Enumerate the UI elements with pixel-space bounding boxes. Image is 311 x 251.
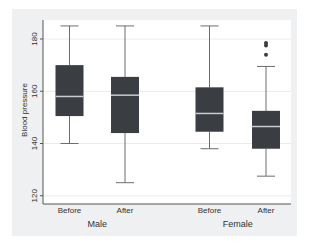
box (196, 87, 224, 131)
y-axis-title: Blood pressure (20, 83, 29, 137)
y-tick-label: 180 (30, 32, 39, 46)
x-group-label: Male (87, 219, 107, 229)
x-category-label: Before (58, 206, 82, 215)
x-category-label: Before (198, 206, 222, 215)
y-tick-label: 120 (30, 189, 39, 203)
y-tick-label: 160 (30, 84, 39, 98)
x-category-label: After (258, 206, 275, 215)
box (111, 77, 139, 133)
outlier-point (264, 53, 268, 57)
x-group-label: Female (223, 219, 253, 229)
box (252, 111, 280, 149)
box (56, 65, 84, 116)
box-plot-chart: 120140160180Blood pressureBeforeAfterMal… (0, 0, 311, 251)
x-category-label: After (117, 206, 134, 215)
y-tick-label: 140 (30, 136, 39, 150)
outlier-point (264, 41, 268, 45)
